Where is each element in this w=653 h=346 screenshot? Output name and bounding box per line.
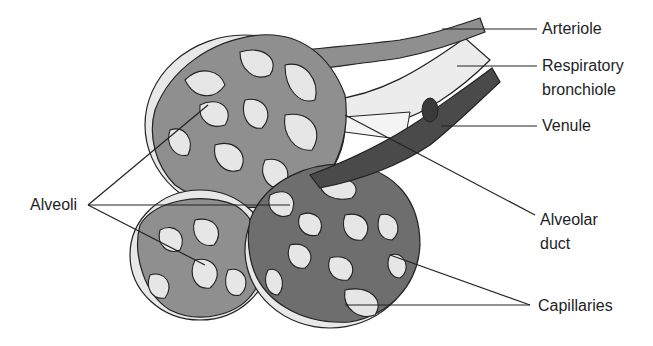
label-alveolar-duct-2: duct [540,234,570,253]
alveoli-diagram [0,0,653,346]
label-arteriole: Arteriole [542,19,602,38]
label-respiratory-bronchiole-1: Respiratory [542,56,624,75]
label-respiratory-bronchiole-2: bronchiole [542,80,616,99]
venule-opening [422,98,438,122]
label-alveolar-duct-1: Alveolar [540,210,598,229]
label-alveoli: Alveoli [30,195,77,214]
alveolus-lower-right [245,164,420,328]
label-venule: Venule [542,116,591,135]
label-capillaries: Capillaries [538,296,613,315]
